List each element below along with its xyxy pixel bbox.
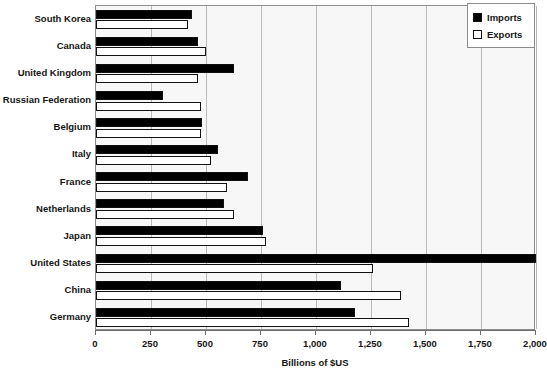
bar-group [96,277,534,304]
category-label: China [0,284,91,295]
category-axis-labels: South KoreaCanadaUnited KingdomRussian F… [0,5,91,330]
bar-group [96,169,534,196]
bar-imports [96,199,224,208]
bar-exports [96,264,373,273]
category-label: France [0,176,91,187]
bar-group [96,141,534,168]
bar-exports [96,129,201,138]
bar-rows [96,6,534,329]
category-label: Japan [0,230,91,241]
legend-item-label: Exports [487,29,522,40]
x-axis-tick-label: 1,250 [358,338,382,349]
x-axis-tick-label: 1,750 [468,338,492,349]
x-axis-tick-label: 250 [142,338,158,349]
bar-exports [96,237,266,246]
x-axis-title: Billions of $US [95,357,535,368]
category-label: United Kingdom [0,67,91,78]
x-axis-tick-label: 2,000 [523,338,547,349]
bar-group [96,87,534,114]
x-axis-tick [260,330,261,335]
bar-imports [96,226,263,235]
x-axis-tick-label: 1,000 [303,338,327,349]
plot-area [95,5,535,330]
x-axis-tick [370,330,371,335]
category-label: Belgium [0,121,91,132]
bar-imports [96,308,355,317]
bar-exports [96,156,211,165]
x-axis-tick-label: 500 [197,338,213,349]
legend-item-label: Imports [487,12,522,23]
outlined-white-square-icon [473,30,482,39]
x-axis-tick-label: 750 [252,338,268,349]
category-label: Germany [0,311,91,322]
category-label: United States [0,257,91,268]
legend-item-imports[interactable]: Imports [473,9,534,26]
bar-exports [96,210,234,219]
x-axis-tick [315,330,316,335]
category-label: Russian Federation [0,94,91,105]
bar-imports [96,172,248,181]
bar-exports [96,74,198,83]
bar-imports [96,64,234,73]
x-axis-tick [150,330,151,335]
bar-exports [96,291,401,300]
legend-item-exports[interactable]: Exports [473,26,534,43]
bar-exports [96,183,227,192]
bar-group [96,114,534,141]
gridline [536,6,537,329]
bar-imports [96,91,163,100]
bar-group [96,304,534,331]
x-axis-tick [205,330,206,335]
x-axis-tick [95,330,96,335]
bar-imports [96,254,536,263]
x-axis-tick [535,330,536,335]
chart-legend: Imports Exports [467,3,535,48]
category-label: Italy [0,148,91,159]
bar-imports [96,281,341,290]
bar-exports [96,20,188,29]
bar-exports [96,102,201,111]
x-axis-ticks [95,330,535,336]
bar-imports [96,145,218,154]
x-axis-tick-labels: 02505007501,0001,2501,5001,7502,000 [95,338,535,352]
bar-group [96,250,534,277]
bar-exports [96,47,206,56]
bar-group [96,223,534,250]
x-axis-tick-label: 1,500 [413,338,437,349]
bar-group [96,196,534,223]
filled-black-square-icon [473,13,482,22]
bar-group [96,60,534,87]
x-axis-tick [480,330,481,335]
category-label: South Korea [0,13,91,24]
x-axis-tick [425,330,426,335]
x-axis-tick-label: 0 [92,338,97,349]
bar-imports [96,10,192,19]
category-label: Netherlands [0,203,91,214]
category-label: Canada [0,40,91,51]
bar-imports [96,118,202,127]
bar-exports [96,318,409,327]
bar-imports [96,37,198,46]
